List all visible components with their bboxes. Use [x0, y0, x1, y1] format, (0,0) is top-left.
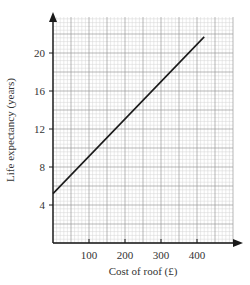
y-tick-label: 20 [34, 47, 46, 59]
x-tick-label: 300 [153, 249, 170, 261]
y-axis-label: Life expectancy (years) [4, 78, 17, 182]
chart: 10020030040048121620 Cost of roof (£) Li… [0, 0, 250, 285]
x-axis-label: Cost of roof (£) [109, 265, 178, 278]
y-tick-label: 16 [34, 85, 46, 97]
x-tick-label: 200 [117, 249, 134, 261]
x-tick-label: 400 [189, 249, 206, 261]
x-tick-label: 100 [81, 249, 98, 261]
axis-ticks: 10020030040048121620 [34, 47, 206, 261]
grid-major [53, 17, 233, 243]
y-tick-label: 4 [40, 199, 46, 211]
y-tick-label: 8 [40, 161, 46, 173]
y-tick-label: 12 [34, 123, 45, 135]
